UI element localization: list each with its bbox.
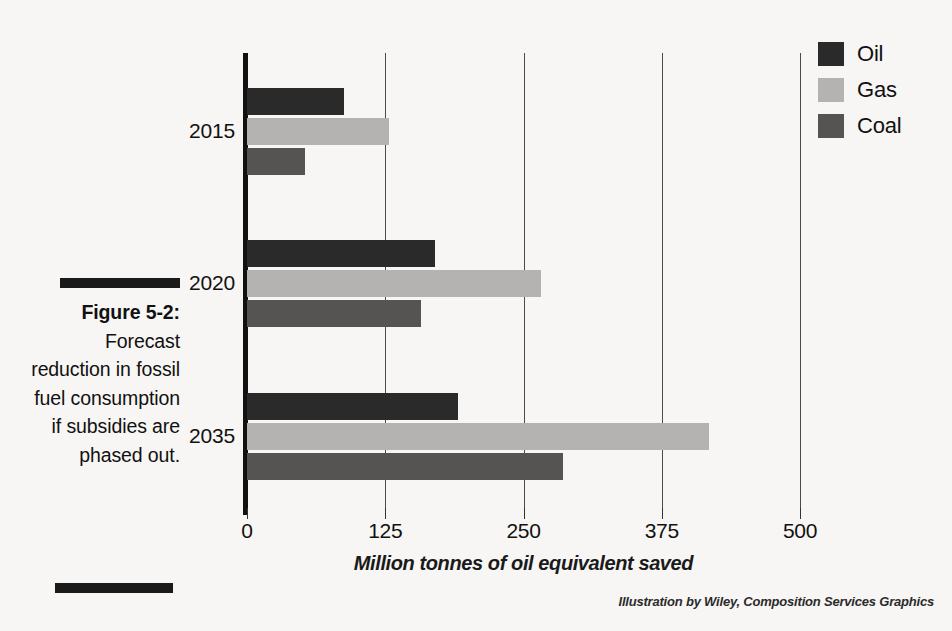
x-tick-label-125: 125 (350, 519, 420, 543)
legend-item-gas: Gas (818, 72, 948, 108)
x-axis-title: Million tonnes of oil equivalent saved (247, 552, 800, 575)
bar-coal-2015 (247, 148, 305, 175)
y-category-label-2020: 2020 (163, 271, 235, 295)
bar-oil-2035 (247, 393, 458, 420)
legend-swatch-coal (818, 114, 844, 138)
legend-label-gas: Gas (857, 77, 897, 103)
bar-gas-2020 (247, 270, 541, 297)
bar-chart: 0125250375500 201520202035 Million tonne… (0, 0, 952, 631)
legend-label-oil: Oil (857, 41, 883, 67)
x-tick-125 (385, 508, 386, 519)
illustration-credit: Illustration by Wiley, Composition Servi… (618, 594, 934, 609)
legend-swatch-gas (818, 78, 844, 102)
bar-oil-2020 (247, 240, 435, 267)
y-category-label-2035: 2035 (163, 424, 235, 448)
legend-swatch-oil (818, 42, 844, 66)
bar-gas-2015 (247, 118, 389, 145)
x-tick-label-250: 250 (489, 519, 559, 543)
x-tick-label-500: 500 (765, 519, 835, 543)
bar-oil-2015 (247, 88, 344, 115)
bar-coal-2020 (247, 300, 421, 327)
x-tick-0 (247, 508, 248, 519)
x-tick-375 (662, 508, 663, 519)
legend-item-coal: Coal (818, 108, 948, 144)
bar-gas-2035 (247, 423, 709, 450)
y-axis-category-labels: 201520202035 (110, 0, 235, 631)
gridline-500 (800, 53, 801, 508)
legend-label-coal: Coal (857, 113, 901, 139)
x-tick-500 (800, 508, 801, 519)
x-tick-250 (524, 508, 525, 519)
figure-page: Figure 5-2: Forecast reduction in fossil… (0, 0, 952, 631)
y-category-label-2015: 2015 (163, 119, 235, 143)
chart-legend: OilGasCoal (818, 36, 948, 144)
x-tick-label-375: 375 (627, 519, 697, 543)
bar-coal-2035 (247, 453, 563, 480)
legend-item-oil: Oil (818, 36, 948, 72)
